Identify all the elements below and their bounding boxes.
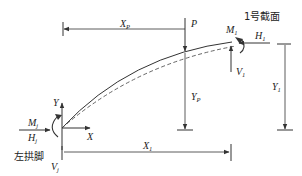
mj-label: Mj (27, 117, 38, 129)
y1-dimension: Y1 (272, 44, 293, 130)
m1-label: M1 (225, 24, 238, 36)
deflected-axis-curve (62, 46, 236, 128)
axis-x-label: X (86, 131, 94, 142)
p-label: P (190, 18, 197, 29)
yp-dimension: YP (177, 53, 201, 130)
y1-label: Y1 (272, 81, 281, 93)
moment-mj (52, 114, 62, 137)
force-vj: Vj (51, 146, 62, 173)
x1-dimension: X1 (64, 140, 231, 161)
force-hj: Mj Hj (19, 117, 50, 144)
arch-diagram: XP P YP 1号截面 M1 H1 V1 Y1 Y X (0, 0, 302, 176)
moment-m1: M1 (225, 24, 244, 53)
axis-y-label: Y (53, 97, 60, 108)
yp-label: YP (191, 91, 201, 103)
local-axes: Y X (53, 97, 94, 150)
h1-label: H1 (254, 30, 265, 42)
v1-label: V1 (236, 66, 245, 78)
load-p: P (185, 18, 197, 51)
force-h1: H1 (239, 30, 270, 43)
x1-label: X1 (142, 140, 152, 152)
vj-label: Vj (51, 161, 59, 173)
force-v1: V1 (231, 46, 245, 78)
xp-dimension: XP (63, 18, 185, 36)
xp-label: XP (119, 18, 130, 30)
left-support-label: 左拱脚 (14, 150, 44, 162)
arch-axis-curve (62, 42, 232, 128)
hj-label: Hj (27, 132, 37, 144)
section-1-label: 1号截面 (244, 10, 280, 22)
